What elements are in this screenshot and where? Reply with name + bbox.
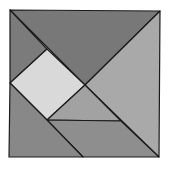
tangram-diagram <box>0 0 173 170</box>
